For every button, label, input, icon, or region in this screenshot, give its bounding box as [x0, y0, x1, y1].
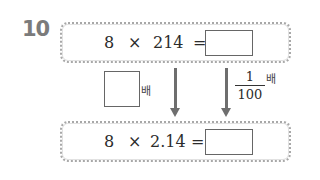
bottom-equation-box: 8 × 2.14 =: [60, 121, 291, 162]
bottom-equals-sign: =: [191, 123, 204, 160]
left-down-arrow-icon: [174, 68, 177, 109]
top-equation-box: 8 × 214 =: [60, 22, 291, 63]
left-bae-label: 배: [141, 82, 151, 98]
bottom-answer-input[interactable]: [205, 129, 253, 155]
fraction-numerator: 1: [235, 69, 265, 84]
question-number: 10: [22, 17, 49, 41]
fraction-denominator: 100: [235, 87, 265, 102]
bottom-multiply-sign: ×: [128, 123, 141, 160]
fraction-bar: [235, 85, 265, 86]
right-bae-label: 배: [266, 70, 276, 86]
right-down-arrow-icon: [225, 68, 228, 109]
bottom-operand-a: 8: [104, 123, 114, 160]
bottom-equation: 8 × 2.14 =: [62, 123, 289, 160]
top-operand-a: 8: [104, 24, 114, 61]
top-multiply-sign: ×: [128, 24, 141, 61]
multiplier-blank-input[interactable]: [104, 71, 140, 107]
top-equation: 8 × 214 =: [62, 24, 289, 61]
top-operand-b: 214: [153, 24, 184, 61]
fraction-one-hundredth: 1 100: [235, 69, 265, 102]
top-answer-input[interactable]: [205, 30, 253, 56]
bottom-operand-b: 2.14: [150, 123, 186, 160]
